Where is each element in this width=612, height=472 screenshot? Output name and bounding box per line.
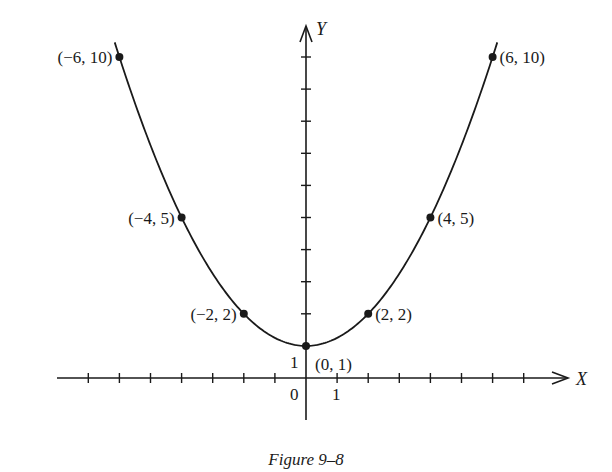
y-axis-label: Y (316, 19, 328, 39)
origin-label: 0 (290, 385, 299, 404)
data-point (240, 310, 248, 318)
point-label: (2, 2) (375, 305, 412, 324)
figure-caption: Figure 9–8 (267, 450, 344, 469)
parabola-figure: (−6, 10)(−4, 5)(−2, 2)(0, 1)(2, 2)(4, 5)… (0, 0, 612, 472)
point-label: (0, 1) (315, 355, 352, 374)
y-tick-label-1: 1 (290, 353, 299, 372)
data-point (364, 310, 372, 318)
data-point (489, 53, 497, 61)
data-point (426, 214, 434, 222)
data-point (178, 214, 186, 222)
labeled-points: (−6, 10)(−4, 5)(−2, 2)(0, 1)(2, 2)(4, 5)… (57, 48, 544, 374)
point-label: (4, 5) (437, 209, 474, 228)
x-axis-label: X (575, 369, 588, 389)
data-point (302, 342, 310, 350)
data-point (115, 53, 123, 61)
point-label: (−2, 2) (190, 305, 236, 324)
point-label: (−6, 10) (57, 48, 112, 67)
point-label: (6, 10) (500, 48, 545, 67)
point-label: (−4, 5) (128, 209, 174, 228)
x-tick-label-1: 1 (332, 385, 341, 404)
